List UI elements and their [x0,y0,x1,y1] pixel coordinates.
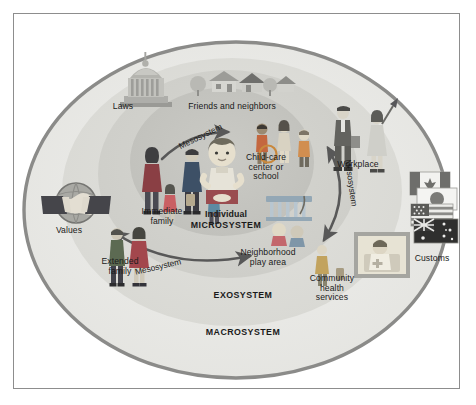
figure-frame: Laws Friends and neighbors Workplace Cus… [13,13,460,389]
ecological-systems-figure: Laws Friends and neighbors Workplace Cus… [0,0,476,405]
world-flags-icon [410,172,458,243]
diagram-canvas [14,14,459,388]
nurse-patient-icon [354,232,410,278]
australia-flag [414,219,458,243]
